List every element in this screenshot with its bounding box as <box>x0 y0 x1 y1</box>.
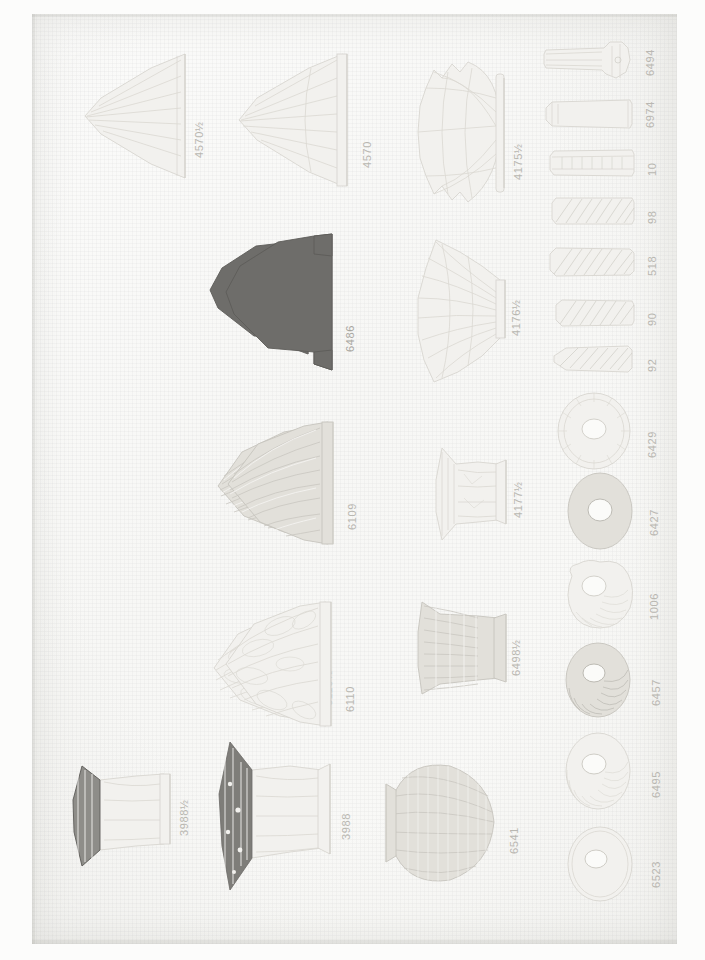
item-label: 4570½ <box>193 121 205 158</box>
catalog-item[interactable]: 6486 <box>216 228 344 376</box>
catalog-plate: 4570½ 6486½ <box>0 0 705 960</box>
item-label: 6429 <box>646 431 658 458</box>
catalog-item[interactable]: 518 <box>548 244 638 280</box>
catalog-item[interactable]: 6541 <box>372 756 512 892</box>
item-label: 4175½ <box>512 143 524 180</box>
catalog-item[interactable]: 6495 <box>560 730 646 812</box>
item-label: 6486 <box>344 325 356 352</box>
catalog-item[interactable]: 4177½ <box>412 440 516 548</box>
catalog-item[interactable]: 3988 <box>200 726 340 902</box>
item-label: 6974 <box>644 101 656 128</box>
catalog-item[interactable]: 6427 <box>562 470 644 552</box>
item-label: 6523 <box>650 861 662 888</box>
catalog-item[interactable]: 1006 <box>558 556 644 634</box>
catalog-item[interactable]: 4175½ <box>408 48 518 218</box>
item-label: 6498½ <box>510 639 522 676</box>
item-label: 3988½ <box>178 799 190 836</box>
item-label: 6109 <box>346 503 358 530</box>
item-label: 90 <box>646 313 658 326</box>
item-label: 4176½ <box>510 299 522 336</box>
catalog-item[interactable]: 10 <box>548 146 638 180</box>
item-label: 518 <box>646 256 658 276</box>
item-label: 98 <box>646 211 658 224</box>
item-label: 6541 <box>508 827 520 854</box>
catalog-item[interactable]: 98 <box>550 194 638 228</box>
catalog-item[interactable]: 6109 <box>208 412 344 556</box>
catalog-item[interactable]: 6523 <box>562 824 646 904</box>
catalog-item[interactable]: 4570½ <box>55 46 190 186</box>
catalog-item[interactable]: 3988½ <box>52 740 182 876</box>
item-label: 1006 <box>648 593 660 620</box>
item-label: 6457 <box>650 679 662 706</box>
item-label: 6495 <box>650 771 662 798</box>
item-label: 4570 <box>361 141 373 168</box>
catalog-item[interactable]: 4570 <box>215 48 355 194</box>
catalog-item[interactable]: 92 <box>552 342 638 376</box>
catalog-item[interactable]: 6974 <box>544 96 638 132</box>
catalog-item[interactable]: 6110 <box>206 592 344 738</box>
item-label: 6494 <box>644 49 656 76</box>
catalog-item[interactable]: 6457 <box>560 640 646 720</box>
catalog-item[interactable]: 6498½ <box>406 592 518 708</box>
catalog-item[interactable]: 6429 <box>554 390 640 472</box>
item-label: 4177½ <box>512 481 524 518</box>
catalog-item[interactable]: 6494 <box>540 40 638 82</box>
item-label: 3988 <box>340 813 352 840</box>
catalog-item[interactable]: 90 <box>554 296 638 330</box>
item-label: 6427 <box>648 509 660 536</box>
scan-background: 4570½ 6486½ <box>0 0 705 960</box>
item-label: 6110 <box>344 686 356 712</box>
item-label: 92 <box>646 359 658 372</box>
catalog-item[interactable]: 4176½ <box>406 232 516 384</box>
item-label: 10 <box>646 163 658 176</box>
